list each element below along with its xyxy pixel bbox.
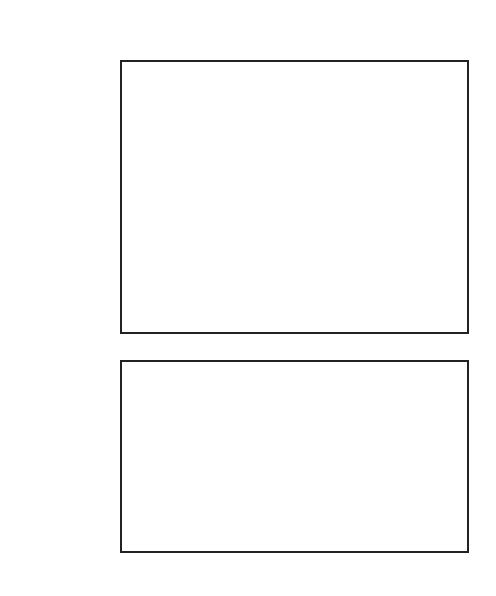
frequency-plot-frame [121,361,468,552]
figure [0,0,496,596]
damping-plot-frame [121,61,468,333]
